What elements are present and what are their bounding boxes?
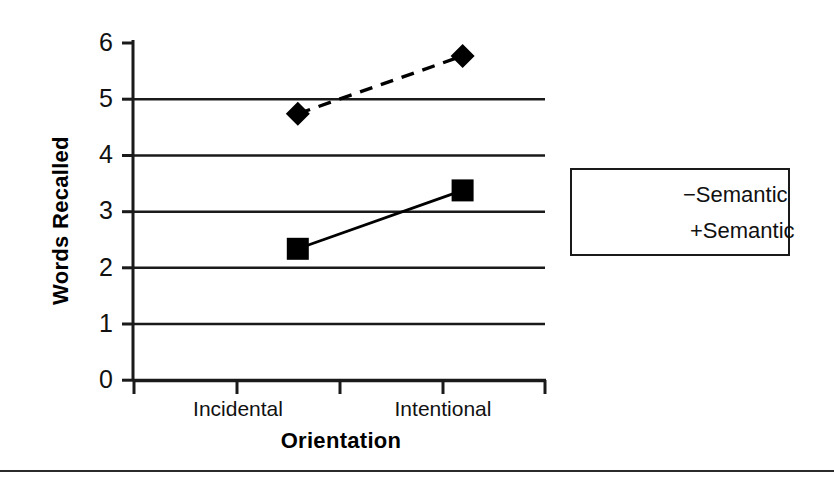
figure-container: 6 5 4 3 2 1 0 Words Recalled Incidental … <box>0 0 834 483</box>
y-axis-title: Words Recalled <box>48 136 74 305</box>
y-tick-label-0: 0 <box>83 367 113 392</box>
bottom-divider <box>0 470 834 472</box>
series-plus-semantic-marker-intentional <box>452 179 474 201</box>
legend-label-plus-semantic: +Semantic <box>690 220 795 242</box>
x-tick-label-intentional: Intentional <box>383 398 503 419</box>
legend-label-minus-semantic: −Semantic <box>683 184 788 206</box>
y-tick-label-6: 6 <box>83 30 113 55</box>
y-tick-label-1: 1 <box>83 311 113 336</box>
y-tick-label-4: 4 <box>83 142 113 167</box>
y-axis-ticks <box>122 43 133 380</box>
y-tick-label-2: 2 <box>83 255 113 280</box>
plot-background <box>133 40 545 380</box>
x-axis-title: Orientation <box>236 428 446 454</box>
series-plus-semantic-marker-incidental <box>287 238 309 260</box>
y-tick-label-5: 5 <box>83 86 113 111</box>
x-tick-label-incidental: Incidental <box>178 398 298 419</box>
y-tick-label-3: 3 <box>83 198 113 223</box>
